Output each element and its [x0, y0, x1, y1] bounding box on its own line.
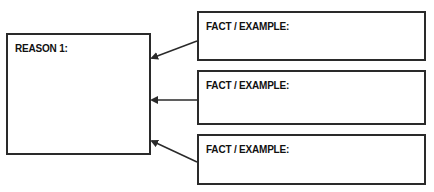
connector-arrows	[0, 0, 434, 192]
arrow-fact1-to-reason	[152, 41, 197, 58]
arrow-fact3-to-reason	[152, 141, 197, 162]
